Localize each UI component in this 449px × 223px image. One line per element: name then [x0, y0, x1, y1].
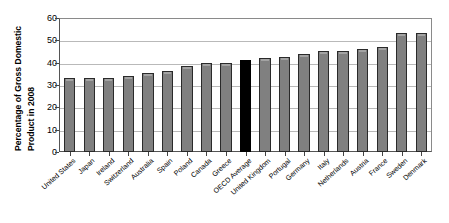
x-axis-tick-mark — [343, 152, 344, 156]
x-axis-label-austria: Austria — [348, 157, 370, 178]
x-axis-tick-mark — [285, 152, 286, 156]
x-axis-tick-mark — [187, 152, 188, 156]
x-axis-label-text: United States — [40, 157, 77, 191]
x-axis-label-text: Spain — [156, 157, 175, 175]
x-axis-tick-mark — [89, 152, 90, 156]
x-axis-label-text: Italy — [316, 157, 331, 172]
x-axis-tick-mark — [402, 152, 403, 156]
bar-chart: Percentage of Gross Domestic Product in … — [0, 0, 449, 223]
x-axis-label-canada: Canada — [190, 157, 214, 180]
x-axis-label-text: Austria — [348, 157, 370, 178]
x-axis-tick-mark — [421, 152, 422, 156]
x-axis-tick-mark — [167, 152, 168, 156]
x-axis-label-text: Canada — [190, 157, 214, 180]
x-axis-tick-mark — [109, 152, 110, 156]
x-axis-tick-mark — [265, 152, 266, 156]
x-axis-label-united-states: United States — [40, 157, 77, 191]
x-axis-label-text: Japan — [77, 157, 97, 176]
x-axis-tick-mark — [70, 152, 71, 156]
x-axis-label-japan: Japan — [77, 157, 97, 176]
x-axis-tick-mark — [206, 152, 207, 156]
x-axis-label-italy: Italy — [316, 157, 331, 172]
x-axis-tick-mark — [226, 152, 227, 156]
x-axis-labels: United StatesJapanIrelandSwitzerlandAust… — [0, 0, 449, 223]
x-axis-tick-mark — [304, 152, 305, 156]
x-axis-label-spain: Spain — [156, 157, 175, 175]
x-axis-tick-mark — [324, 152, 325, 156]
x-axis-tick-mark — [363, 152, 364, 156]
x-axis-tick-mark — [128, 152, 129, 156]
x-axis-tick-mark — [382, 152, 383, 156]
x-axis-tick-mark — [246, 152, 247, 156]
x-axis-tick-mark — [148, 152, 149, 156]
